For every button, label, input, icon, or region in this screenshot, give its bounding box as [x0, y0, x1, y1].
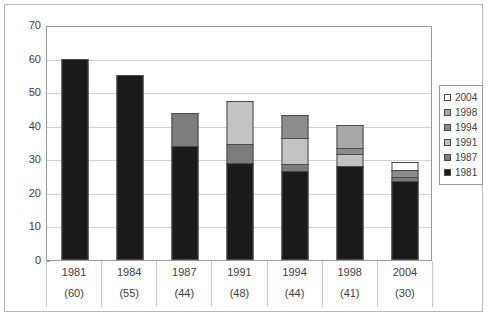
x-axis-count-label: (48) — [212, 287, 266, 299]
legend-swatch-icon — [444, 109, 451, 116]
x-axis-count-label: (55) — [102, 287, 156, 299]
legend-item-label: 1991 — [455, 138, 477, 148]
x-axis-count-label: (60) — [47, 287, 101, 299]
x-axis-count-label: (30) — [378, 287, 432, 299]
stacked-bar[interactable] — [392, 162, 419, 260]
chart-legend: 200419981994199119871981 — [439, 85, 483, 185]
x-axis-cell: 2004(30) — [378, 261, 433, 307]
y-axis-tick-label: 0 — [11, 255, 41, 266]
legend-swatch-icon — [444, 124, 451, 131]
bar-segment-1981[interactable] — [226, 163, 253, 260]
x-axis-cell: 1984(55) — [102, 261, 157, 307]
legend-item-1987[interactable]: 1987 — [444, 150, 479, 165]
bar-segment-1981[interactable] — [171, 146, 198, 260]
stacked-bar[interactable] — [61, 59, 88, 260]
y-axis: 010203040506070 — [5, 20, 41, 267]
x-axis-category-label: 1991 — [212, 266, 266, 278]
x-axis-category-label: 1984 — [102, 266, 156, 278]
bar-slot — [378, 27, 433, 260]
bar-slot — [47, 27, 102, 260]
legend-item-label: 1981 — [455, 168, 477, 178]
bar-segment-1994[interactable] — [282, 115, 309, 139]
bar-segment-1991[interactable] — [226, 101, 253, 145]
y-axis-tick-label: 40 — [11, 121, 41, 132]
stacked-bar[interactable] — [171, 113, 198, 260]
bar-segment-1987[interactable] — [226, 144, 253, 164]
legend-item-label: 1994 — [455, 123, 477, 133]
legend-item-label: 1998 — [455, 108, 477, 118]
legend-swatch-icon — [444, 154, 451, 161]
legend-item-label: 2004 — [455, 93, 477, 103]
bar-segment-1981[interactable] — [337, 166, 364, 260]
legend-item-1994[interactable]: 1994 — [444, 120, 479, 135]
bar-segment-1981[interactable] — [61, 59, 88, 260]
x-axis-label-table: 1981(60)1984(55)1987(44)1991(48)1994(44)… — [46, 261, 433, 307]
stacked-bar[interactable] — [282, 115, 309, 260]
y-axis-tick-label: 20 — [11, 188, 41, 199]
x-axis-cell: 1981(60) — [47, 261, 102, 307]
legend-item-label: 1987 — [455, 153, 477, 163]
bar-segment-1981[interactable] — [282, 171, 309, 260]
y-axis-tick-label: 50 — [11, 87, 41, 98]
y-axis-tick-label: 30 — [11, 154, 41, 165]
bar-segment-1998[interactable] — [337, 125, 364, 149]
stacked-bar[interactable] — [226, 101, 253, 260]
x-axis-cell: 1987(44) — [157, 261, 212, 307]
y-axis-tick-label: 60 — [11, 54, 41, 65]
x-axis-count-label: (44) — [268, 287, 322, 299]
bar-segment-1987[interactable] — [171, 113, 198, 147]
bar-slot — [157, 27, 212, 260]
x-axis-cell: 1994(44) — [268, 261, 323, 307]
x-axis-category-label: 1994 — [268, 266, 322, 278]
x-axis-category-label: 1981 — [47, 266, 101, 278]
legend-item-1998[interactable]: 1998 — [444, 105, 479, 120]
bar-slot — [102, 27, 157, 260]
legend-item-1991[interactable]: 1991 — [444, 135, 479, 150]
x-axis-count-label: (41) — [323, 287, 377, 299]
bar-segment-1991[interactable] — [337, 154, 364, 167]
x-axis-cell: 1991(48) — [212, 261, 267, 307]
y-axis-tick-label: 70 — [11, 20, 41, 31]
x-axis-category-label: 1987 — [157, 266, 211, 278]
x-axis-category-label: 1998 — [323, 266, 377, 278]
bar-segment-1981[interactable] — [116, 75, 143, 260]
y-axis-tick-label: 10 — [11, 221, 41, 232]
plot-area — [46, 26, 432, 261]
bar-segment-1991[interactable] — [282, 138, 309, 165]
x-axis-category-label: 2004 — [378, 266, 432, 278]
legend-item-2004[interactable]: 2004 — [444, 90, 479, 105]
legend-swatch-icon — [444, 94, 451, 101]
x-axis-count-label: (44) — [157, 287, 211, 299]
stacked-bar[interactable] — [337, 125, 364, 260]
legend-swatch-icon — [444, 139, 451, 146]
stacked-bar[interactable] — [116, 75, 143, 260]
chart-frame: 010203040506070 1981(60)1984(55)1987(44)… — [4, 4, 483, 312]
bar-slot — [323, 27, 378, 260]
legend-swatch-icon — [444, 169, 451, 176]
legend-item-1981[interactable]: 1981 — [444, 165, 479, 180]
bar-segment-1981[interactable] — [392, 181, 419, 260]
x-axis-cell: 1998(41) — [323, 261, 378, 307]
bar-slot — [212, 27, 267, 260]
bar-slot — [268, 27, 323, 260]
